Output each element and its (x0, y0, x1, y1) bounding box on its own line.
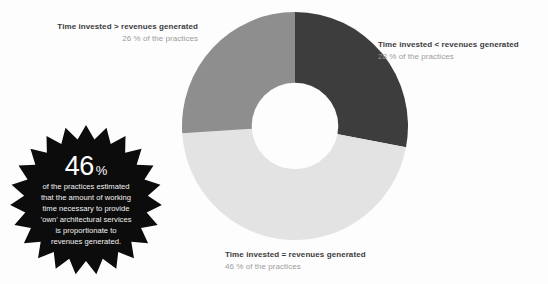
starburst-badge-shape (8, 124, 164, 276)
callout-time-greater: Time invested > revenues generated 26 % … (18, 22, 198, 44)
donut-center-hole (252, 83, 339, 170)
callout-less-title: Time invested < revenues generated (378, 40, 548, 50)
callout-equal-subtitle: 46 % of the practices (225, 262, 425, 272)
starburst-icon (10, 125, 162, 274)
donut-chart (182, 12, 408, 240)
callout-time-less: Time invested < revenues generated 28 % … (378, 40, 548, 62)
donut-chart-svg (182, 12, 408, 240)
infographic-canvas: Time invested > revenues generated 26 % … (0, 0, 548, 284)
callout-greater-subtitle: 26 % of the practices (18, 34, 198, 44)
starburst-badge: 46 % of the practices estimatedthat the … (8, 124, 164, 276)
callout-greater-title: Time invested > revenues generated (18, 22, 198, 32)
callout-time-equal: Time invested = revenues generated 46 % … (225, 250, 425, 272)
callout-less-subtitle: 28 % of the practices (378, 52, 548, 62)
callout-equal-title: Time invested = revenues generated (225, 250, 425, 260)
